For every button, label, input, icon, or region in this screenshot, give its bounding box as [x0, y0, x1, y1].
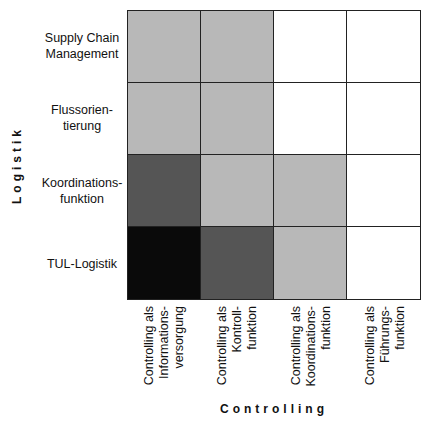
matrix-cell	[347, 227, 420, 299]
matrix-cell	[347, 83, 420, 155]
col-label-fuehrungsfunktion: Controlling als Führungs- funktion	[348, 306, 422, 396]
matrix-cell	[201, 227, 274, 299]
matrix-cell	[274, 227, 347, 299]
matrix-cell	[201, 155, 274, 227]
matrix-cell	[201, 83, 274, 155]
matrix-cell	[128, 83, 201, 155]
matrix-diagram: Logistik Supply Chain Management Flussor…	[0, 0, 433, 428]
matrix-cell	[274, 83, 347, 155]
matrix-cell	[274, 11, 347, 83]
matrix-cell	[347, 11, 420, 83]
col-label-kontrollfunktion: Controlling als Kontroll- funktion	[200, 306, 274, 396]
matrix-cell	[128, 227, 201, 299]
matrix-grid	[127, 10, 421, 300]
row-label-koordinationsfunktion: Koordinations- funktion	[40, 175, 124, 207]
row-label-flussorientierung: Flussorien- tierung	[40, 102, 124, 134]
x-axis-label: Controlling	[220, 402, 328, 416]
matrix-cell	[128, 11, 201, 83]
y-axis-label: Logistik	[10, 126, 24, 204]
col-label-koordinationsfunktion: Controlling als Koordinations- funktion	[274, 306, 348, 396]
matrix-cell	[201, 11, 274, 83]
row-label-tul-logistik: TUL-Logistik	[40, 256, 124, 272]
matrix-cell	[347, 155, 420, 227]
col-label-informationsversorgung: Controlling als Informations- versorgung	[127, 306, 201, 396]
matrix-cell	[128, 155, 201, 227]
matrix-cell	[274, 155, 347, 227]
row-label-supply-chain: Supply Chain Management	[40, 30, 124, 62]
